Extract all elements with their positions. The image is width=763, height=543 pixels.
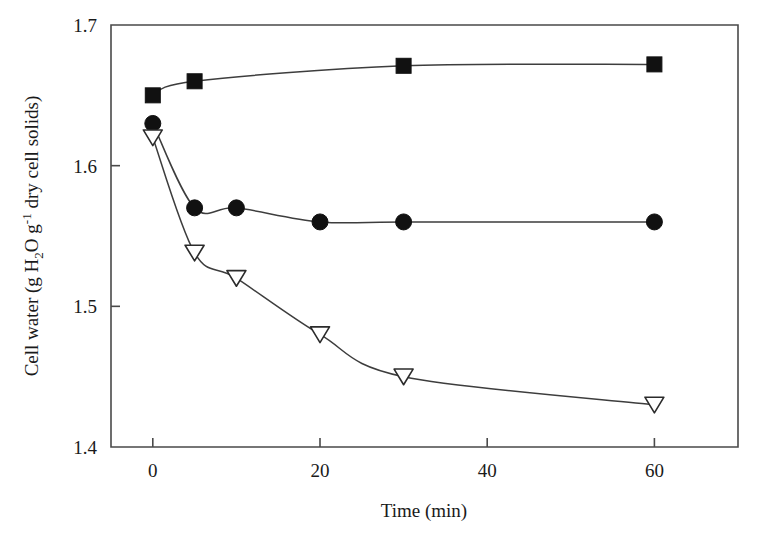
marker-filled-circle: [228, 200, 244, 216]
marker-filled-circle: [187, 200, 203, 216]
x-axis-title: Time (min): [381, 500, 467, 522]
y-axis-title-prefix: Cell water (g H: [21, 258, 43, 376]
x-tick-label: 40: [478, 460, 497, 481]
x-tick-label: 60: [645, 460, 664, 481]
y-tick-label: 1.7: [73, 15, 97, 36]
marker-filled-circle: [646, 214, 662, 230]
y-axis-title-superscript: -1: [19, 213, 34, 224]
y-axis-title-mid: O g: [21, 224, 42, 252]
marker-filled-circle: [312, 214, 328, 230]
marker-filled-square: [396, 58, 411, 73]
y-axis-title-suffix: dry cell solids): [21, 96, 43, 214]
y-axis-title-group: Cell water (g H2O g-1 dry cell solids): [19, 96, 46, 377]
marker-filled-circle: [396, 214, 412, 230]
chart-figure: 1.41.51.61.7 0204060 Time (min) Cell wat…: [0, 0, 763, 543]
marker-filled-square: [145, 88, 160, 103]
x-tick-label: 0: [148, 460, 158, 481]
x-tick-label: 20: [311, 460, 330, 481]
y-tick-label: 1.5: [73, 296, 97, 317]
marker-filled-square: [187, 74, 202, 89]
y-tick-label: 1.6: [73, 156, 97, 177]
y-axis-title: Cell water (g H2O g-1 dry cell solids): [19, 96, 46, 377]
marker-filled-square: [647, 57, 662, 72]
marker-filled-circle: [145, 115, 161, 131]
y-tick-label: 1.4: [73, 437, 97, 458]
